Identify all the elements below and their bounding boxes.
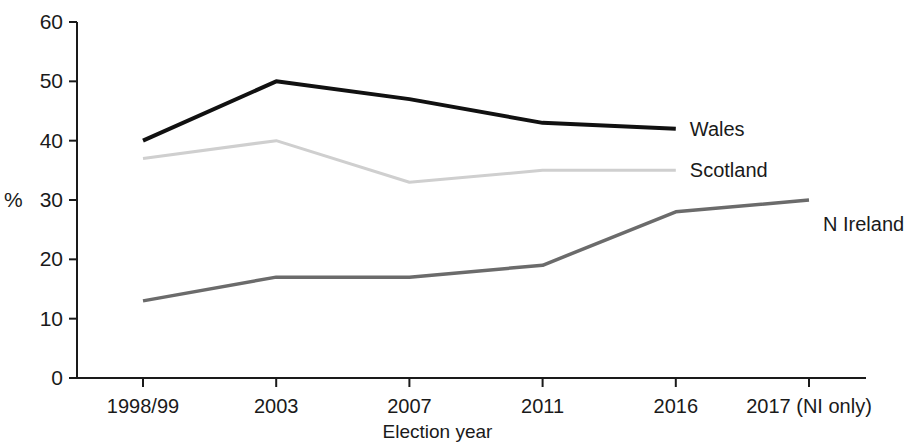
x-tick-label: 2017 (NI only) [746, 396, 872, 416]
series-line-scotland [143, 141, 676, 183]
y-tick-label: 0 [51, 367, 63, 388]
x-tick-label: 1998/99 [107, 396, 179, 416]
y-tick-label: 20 [40, 248, 63, 269]
x-axis-title: Election year [383, 422, 493, 441]
x-tick-label: 2003 [254, 396, 299, 416]
x-tick-label: 2007 [387, 396, 432, 416]
x-tick-label: 2011 [521, 396, 564, 416]
series-line-n-ireland [143, 200, 809, 301]
y-tick-label: 50 [40, 70, 63, 91]
x-tick-label: 2016 [654, 396, 699, 416]
series-label-scotland: Scotland [690, 160, 768, 180]
y-tick-label: 30 [40, 189, 63, 210]
y-tick-label: 10 [40, 308, 63, 329]
chart-series-lines [143, 81, 809, 301]
series-label-n-ireland: N Ireland [823, 214, 904, 234]
series-line-wales [143, 81, 676, 140]
y-tick-label: 60 [40, 11, 63, 32]
y-tick-label: 40 [40, 130, 63, 151]
series-label-wales: Wales [690, 119, 745, 139]
y-axis-title: % [4, 189, 23, 210]
